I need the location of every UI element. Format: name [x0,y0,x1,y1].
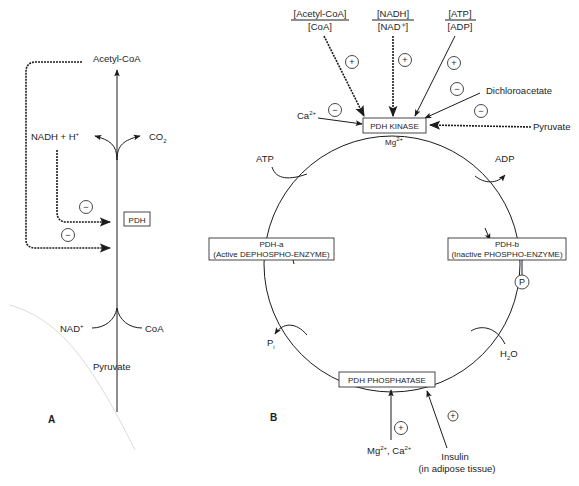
plus-sign: + [402,55,407,65]
mg-ca-label: Mg2+, Ca2+ [367,445,412,456]
plus-sign: + [398,423,403,433]
ratio-nadh-numerator: [NADH] [377,8,409,19]
pdh-kinase-label: PDH KINASE [370,122,418,131]
acetylcoa-inhibition-loop [26,62,110,248]
acetyl-coa-label: Acetyl-CoA [93,53,141,64]
minus-sign: − [65,230,70,240]
plus-sign: + [451,58,456,68]
mg-label: Mg2+ [385,136,403,147]
pyruvate-label: Pyruvate [533,121,571,132]
pi-label: Pi [267,337,275,350]
panel-b: [Acetyl-CoA] [CoA] [NADH] [NAD⁺] [ATP] [… [209,8,571,474]
h2o-label: H2O [500,348,518,361]
co2-label: CO2 [149,131,167,144]
pdh-regulation-diagram: Acetyl-CoA NADH + H+ CO2 NAD+ CoA Pyruva… [0,0,579,486]
interconversion-cycle [264,136,520,392]
nad-label: NAD+ [60,323,84,334]
atp-label: ATP [256,153,274,164]
ca-inhibition-arrow [318,118,362,124]
coa-label: CoA [145,323,164,334]
ratio-atp-numerator: [ATP] [448,8,471,19]
h2o-input-curve [471,328,505,344]
minus-sign: − [83,202,88,212]
minus-sign: − [454,84,459,94]
panel-b-label: B [270,412,277,423]
nad-input-curve [92,308,117,328]
panel-a: Acetyl-CoA NADH + H+ CO2 NAD+ CoA Pyruva… [26,53,167,425]
nadh-h-label: NADH + H+ [31,131,80,142]
ratio-atp-denominator: [ADP] [448,21,473,32]
phosphate-label: P [519,277,525,287]
pyruvate-label: Pyruvate [93,361,131,372]
panel-a-label: A [48,414,55,425]
ratio-nadh-denominator: [NAD⁺] [378,21,408,32]
ca-label: Ca2+ [297,110,316,121]
insulin-activation-arrow [427,391,447,448]
coa-input-curve [117,308,142,328]
plus-sign: + [450,411,455,421]
pdh-phosphatase-label: PDH PHOSPHATASE [348,376,426,385]
atp-activation-arrow [415,36,455,116]
dichloroacetate-label: Dichloroacetate [486,85,552,96]
atp-input-curve [272,167,307,178]
dichloroacetate-inhibition-arrow [425,93,480,118]
pyruvate-inhibition-arrow [430,125,531,127]
minus-sign: − [478,106,483,116]
co2-branch-arrow [117,136,140,160]
pdh-b-title: PDH-b [495,240,520,249]
pdh-label: PDH [129,216,146,225]
pdh-b-subtitle: (Inactive PHOSPHO-ENZYME) [451,250,562,259]
ratio-acetylcoa-denominator: [CoA] [308,21,332,32]
acetylcoa-activation-arrow [324,36,364,116]
adp-output-arrow [475,175,505,182]
adp-label: ADP [495,153,515,164]
pdh-a-subtitle: (Active DEPHOSPHO-ENZYME) [213,250,330,259]
pdh-a-title: PDH-a [259,240,284,249]
plus-sign: + [349,57,354,67]
ratio-acetylcoa-numerator: [Acetyl-CoA] [294,8,347,19]
minus-sign: − [332,105,337,115]
insulin-note: (in adipose tissue) [418,463,495,474]
nadh-branch-arrow [95,136,117,160]
insulin-label: Insulin [441,451,468,462]
